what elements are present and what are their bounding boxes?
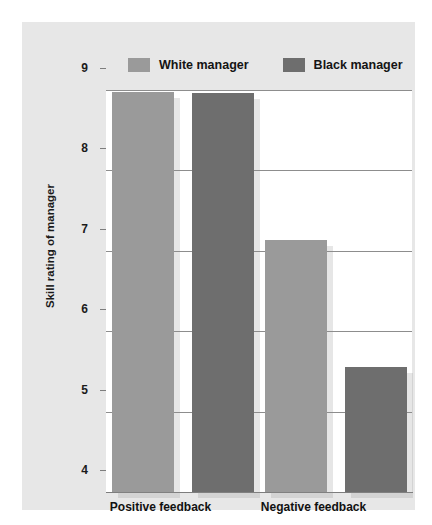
y-tick-label: 6 [62,302,88,316]
bar-black-manager-positive-feedback [192,93,254,492]
bar-white-manager-positive-feedback [112,92,174,492]
y-tick-label: 4 [62,463,88,477]
legend-swatch-black-manager [283,58,305,72]
chart-legend: White manager Black manager [128,58,403,72]
y-tick-mark [100,68,106,69]
bar-body [345,367,407,492]
chart-figure: White manager Black manager Skill rating… [0,0,432,525]
legend-swatch-white-manager [128,58,150,72]
legend-label-black-manager: Black manager [314,58,403,72]
y-axis-label: Skill rating of manager [44,156,56,336]
y-tick-label: 8 [62,141,88,155]
bar-black-manager-negative-feedback [345,367,407,492]
legend-item-white-manager: White manager [128,58,249,72]
x-tick-label: Positive feedback [91,500,231,514]
bar-body [265,240,327,492]
y-tick-label: 9 [62,61,88,75]
chart-panel: White manager Black manager Skill rating… [22,22,415,510]
y-tick-label: 5 [62,383,88,397]
bar-body [192,93,254,492]
gridline [106,90,412,91]
legend-label-white-manager: White manager [159,58,249,72]
x-tick-label: Negative feedback [244,500,384,514]
plot-area [106,90,412,492]
bar-body [112,92,174,492]
bar-white-manager-negative-feedback [265,240,327,492]
y-tick-label: 7 [62,222,88,236]
legend-item-black-manager: Black manager [283,58,403,72]
